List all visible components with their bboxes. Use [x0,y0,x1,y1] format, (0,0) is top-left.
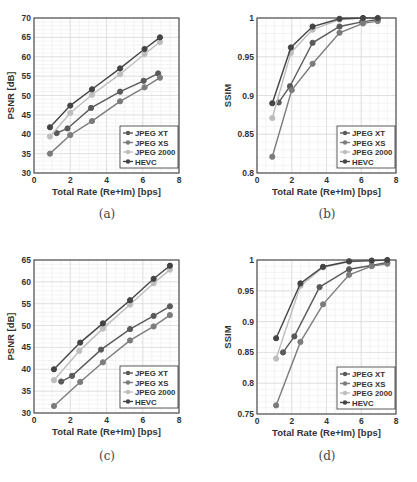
x-tick-label: 2 [68,415,73,425]
series-jpeg-2000 [270,15,381,120]
caption-b: (b) [297,207,357,221]
legend: JPEG XTJPEG XSJPEG 2000HEVC [337,126,395,168]
data-point [51,367,56,372]
figure: 02468303540455055606570Total Rate (Re+Im… [0,0,417,482]
y-tick-label: 0.85 [237,347,254,357]
y-tick-label: 0.9 [242,91,254,101]
x-tick-label: 8 [394,416,399,426]
y-tick-label: 0.95 [237,52,254,62]
data-point [117,72,122,77]
legend-label: JPEG XS [352,139,385,148]
data-point [68,103,73,108]
y-tick-label: 0.8 [242,168,254,178]
x-axis-label: Total Rate (Re+Im) [bps] [272,186,381,197]
legend-label: JPEG 2000 [352,148,393,157]
y-tick-label: 65 [22,32,32,42]
chart-b: 024680.80.850.90.951Total Rate (Re+Im) [… [222,13,399,197]
x-tick-label: 4 [324,175,329,185]
data-point [59,379,64,384]
y-tick-label: 1 [249,13,254,23]
x-tick-label: 0 [32,415,37,425]
data-point [89,87,94,92]
data-point [117,89,122,94]
y-tick-label: 50 [22,321,32,331]
data-point [167,304,172,309]
data-point [337,24,342,29]
data-point [127,338,132,343]
data-point [337,30,342,35]
chart-c: 024683035404550556065Total Rate (Re+Im) … [5,255,182,437]
x-tick-label: 2 [289,416,294,426]
data-point [317,285,322,290]
y-tick-label: 45 [22,342,32,352]
data-point [270,154,275,159]
x-tick-label: 2 [68,175,73,185]
y-tick-label: 35 [22,149,32,159]
x-tick-label: 0 [32,175,37,185]
data-point [375,15,380,20]
y-tick-label: 55 [22,299,32,309]
data-point [310,61,315,66]
data-point [280,350,285,355]
data-point [360,15,365,20]
data-point [100,321,105,326]
data-point [89,92,94,97]
x-tick-label: 6 [359,416,364,426]
data-point [320,264,325,269]
x-tick-label: 6 [359,175,364,185]
data-point [337,16,342,21]
x-tick-label: 0 [255,175,260,185]
data-point [289,87,294,92]
y-tick-label: 40 [22,364,32,374]
data-point [51,378,56,383]
x-axis-label: Total Rate (Re+Im) [bps] [272,427,381,438]
legend-label: JPEG XS [135,379,168,388]
data-point [142,85,147,90]
y-tick-label: 60 [22,277,32,287]
x-tick-label: 6 [140,175,145,185]
data-point [100,360,105,365]
data-point [310,40,315,45]
data-point [78,340,83,345]
chart-d: 024680.750.80.850.90.951Total Rate (Re+I… [222,255,399,438]
y-axis-label: SSIM [222,84,233,107]
data-point [65,126,70,131]
x-axis-label: Total Rate (Re+Im) [bps] [52,186,161,197]
data-point [100,326,105,331]
y-tick-label: 55 [22,71,32,81]
y-tick-label: 0.8 [242,378,254,388]
legend: JPEG XTJPEG XSJPEG 2000HEVC [120,126,178,168]
y-tick-label: 0.9 [242,317,254,327]
y-tick-label: 1 [249,255,254,265]
caption-c: (c) [77,449,137,463]
data-point [127,298,132,303]
data-point [167,312,172,317]
data-point [346,267,351,272]
data-point [151,324,156,329]
data-point [151,313,156,318]
legend: JPEG XTJPEG XSJPEG 2000HEVC [337,367,395,409]
data-point [89,118,94,123]
x-tick-label: 8 [177,175,182,185]
x-tick-label: 6 [140,415,145,425]
legend-label: JPEG XT [352,370,385,379]
data-point [298,339,303,344]
legend-label: HEVC [135,398,157,407]
y-tick-label: 45 [22,110,32,120]
data-point [157,35,162,40]
legend-label: JPEG 2000 [135,388,176,397]
data-point [167,263,172,268]
legend-label: JPEG XS [135,139,168,148]
legend-label: HEVC [352,399,374,408]
legend-label: HEVC [135,158,157,167]
data-point [385,257,390,262]
data-point [310,24,315,29]
data-point [346,272,351,277]
y-tick-label: 50 [22,91,32,101]
y-tick-label: 35 [22,386,32,396]
data-point [117,99,122,104]
chart-a: 02468303540455055606570Total Rate (Re+Im… [5,13,182,197]
y-axis-label: PSNR [dB] [5,71,16,119]
x-axis-label: Total Rate (Re+Im) [bps] [52,426,161,437]
y-axis-label: SSIM [222,325,233,348]
